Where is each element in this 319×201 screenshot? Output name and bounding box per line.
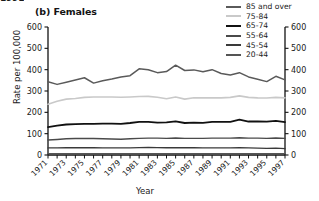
y-tick-label: 200 — [291, 108, 306, 117]
x-tick-label: 1997 — [266, 158, 286, 178]
y-tick-label: 500 — [291, 44, 306, 53]
x-tick-label: 1987 — [175, 158, 195, 178]
chart-figure: 1991 (b) Females Rate per 100,000 Year 8… — [0, 0, 319, 201]
x-tick-label: 1993 — [230, 158, 250, 178]
y-tick-label: 0 — [291, 151, 296, 160]
x-tick-label: 1989 — [193, 158, 213, 178]
axis-group: 0010010020020030030040040050050060060019… — [27, 23, 307, 178]
x-tick-label: 1971 — [29, 158, 49, 178]
x-tick-label: 1977 — [84, 158, 104, 178]
y-tick-label: 400 — [27, 66, 42, 75]
series-line — [48, 65, 285, 84]
y-tick-label: 600 — [27, 23, 42, 32]
x-tick-label: 1979 — [102, 158, 122, 178]
y-tick-label: 300 — [291, 87, 306, 96]
series-line — [48, 147, 285, 148]
y-tick-label: 400 — [291, 66, 306, 75]
x-tick-label: 1985 — [157, 158, 177, 178]
y-tick-label: 100 — [291, 130, 306, 139]
x-tick-label: 1995 — [248, 158, 268, 178]
series-line — [48, 120, 285, 127]
y-tick-label: 300 — [27, 87, 42, 96]
x-tick-label: 1991 — [212, 158, 232, 178]
plot-area: 0010010020020030030040040050050060060019… — [0, 0, 319, 201]
y-tick-label: 100 — [27, 130, 42, 139]
y-tick-label: 200 — [27, 108, 42, 117]
series-group — [48, 65, 285, 154]
x-tick-label: 1973 — [48, 158, 68, 178]
y-tick-label: 500 — [27, 44, 42, 53]
x-tick-label: 1975 — [66, 158, 86, 178]
y-tick-label: 600 — [291, 23, 306, 32]
series-line — [48, 96, 285, 104]
series-line — [48, 138, 285, 140]
x-tick-label: 1981 — [121, 158, 141, 178]
x-tick-label: 1983 — [139, 158, 159, 178]
